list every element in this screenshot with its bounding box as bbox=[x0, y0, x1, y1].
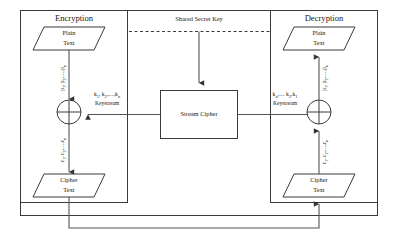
encryption-cipher-text-line1: Cipher bbox=[60, 176, 78, 183]
shared-secret-key-label: Shared Secret Key bbox=[175, 15, 223, 22]
encryption-plain-text-line2: Text bbox=[63, 39, 74, 46]
decryption-keystream-caption: Keystream bbox=[273, 100, 298, 106]
decryption-plain-text-line1: Plain bbox=[312, 29, 326, 36]
diagram-canvas: Encryption Decryption Shared Secret Key … bbox=[0, 0, 397, 240]
decryption-cipher-text-line2: Text bbox=[313, 186, 324, 193]
encryption-input-stream-label: p1, p2,…,pn bbox=[59, 65, 66, 91]
svg-text:p1, p2,…,pn: p1, p2,…,pn bbox=[59, 65, 66, 91]
decryption-cipher-text-line1: Cipher bbox=[310, 176, 328, 183]
svg-text:p1, p2,…,pn: p1, p2,…,pn bbox=[321, 65, 328, 91]
encryption-output-stream-label: c1, c2,…,cn bbox=[59, 138, 66, 163]
encryption-plain-text-line1: Plain bbox=[62, 29, 76, 36]
decryption-header: Decryption bbox=[305, 13, 344, 23]
svg-text:c1, c2,…,cn: c1, c2,…,cn bbox=[321, 140, 328, 165]
stream-cipher-label: Stream Cipher bbox=[180, 110, 218, 117]
decryption-keystream-sequence: kn,… k2,k1 bbox=[273, 91, 298, 98]
decryption-input-stream-label: c1, c2,…,cn bbox=[321, 140, 328, 165]
encryption-keystream-sequence: k1, k2,…,kn bbox=[94, 91, 121, 98]
encryption-header: Encryption bbox=[55, 13, 94, 23]
encryption-cipher-text-line2: Text bbox=[63, 186, 74, 193]
decryption-plain-text-line2: Text bbox=[313, 39, 324, 46]
ciphertext-transmission-channel bbox=[69, 197, 319, 228]
decryption-output-stream-label: p1, p2,…,pn bbox=[321, 65, 328, 91]
encryption-keystream-caption: Keystream bbox=[95, 100, 120, 106]
stream-cipher-diagram: Encryption Decryption Shared Secret Key … bbox=[0, 0, 397, 240]
svg-text:c1, c2,…,cn: c1, c2,…,cn bbox=[59, 138, 66, 163]
